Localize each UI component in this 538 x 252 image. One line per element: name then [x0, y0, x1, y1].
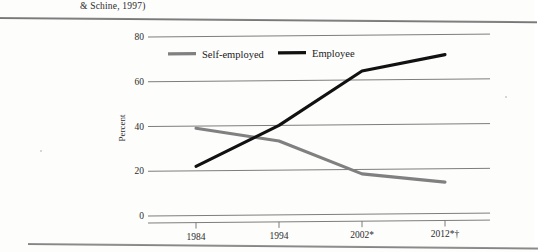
x-tick-label: 1984 — [187, 232, 206, 242]
x-axis — [148, 220, 490, 228]
legend-label: Employee — [312, 48, 355, 59]
series-line — [196, 128, 445, 182]
chart-legend: Self-employedEmployee — [168, 48, 355, 60]
x-tick-label: 2002* — [350, 230, 374, 240]
series-lines — [196, 55, 445, 183]
gridlines — [148, 34, 490, 216]
x-axis-tick-labels: 198419942002*2012*† — [187, 229, 460, 241]
scan-speck — [505, 96, 507, 98]
y-tick-label: 60 — [135, 77, 145, 87]
y-axis-title: Percent — [117, 114, 127, 141]
y-tick-label: 80 — [135, 32, 145, 42]
y-axis-title-text: Percent — [117, 114, 127, 141]
x-tick-label: 1994 — [270, 231, 289, 241]
series-line — [196, 55, 445, 167]
y-tick-label: 0 — [139, 211, 144, 221]
scan-speck — [40, 150, 42, 152]
y-tick-label: 20 — [135, 166, 145, 176]
y-tick-label: 40 — [135, 122, 145, 132]
y-axis-tick-labels: 020406080 — [135, 32, 145, 221]
x-tick-label: 2012*† — [431, 229, 460, 239]
legend-label: Self-employed — [202, 49, 265, 60]
